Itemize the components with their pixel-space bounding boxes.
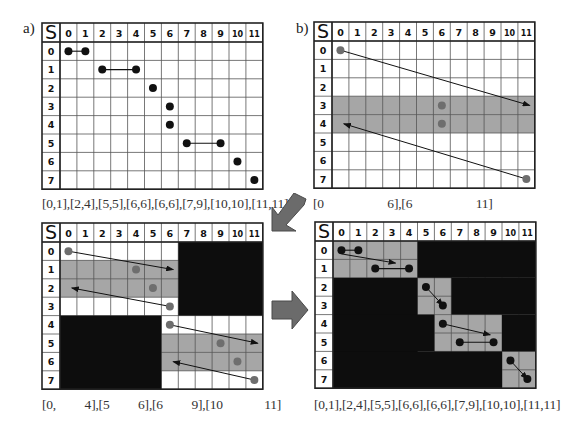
corner-label: S: [45, 21, 57, 43]
column-header: 3: [116, 228, 123, 239]
row-header: 7: [48, 375, 55, 386]
data-point-dot: [522, 175, 530, 183]
data-point-dot: [166, 102, 174, 110]
row-header: 2: [321, 282, 328, 293]
column-header: 4: [133, 28, 140, 39]
column-header: 7: [183, 28, 190, 39]
column-header: 11: [249, 230, 261, 239]
data-point-dot: [439, 320, 447, 328]
data-point-dot: [233, 158, 241, 166]
data-point-dot: [405, 265, 413, 273]
data-point-dot: [438, 101, 446, 109]
column-header: 10: [232, 230, 244, 239]
row-header: 2: [320, 82, 327, 93]
column-header: 7: [456, 227, 463, 238]
row-header: 6: [320, 155, 327, 166]
column-header: 4: [405, 27, 412, 38]
row-header: 1: [321, 263, 328, 274]
masked-region: [333, 351, 502, 388]
row-header: 3: [320, 100, 327, 111]
data-point-dot: [64, 247, 72, 255]
highlight-band: [60, 260, 178, 278]
column-header: 0: [337, 27, 344, 38]
data-point-dot: [438, 120, 446, 128]
data-point-dot: [217, 339, 225, 347]
column-header: 10: [504, 29, 516, 38]
arrow-b-to-c-icon: [270, 193, 310, 233]
grid-panel-b: S0123456789101101234567: [312, 20, 538, 191]
data-point-dot: [354, 246, 362, 254]
data-point-dot: [506, 357, 514, 365]
corner-label: S: [318, 220, 330, 242]
column-header: 8: [473, 227, 480, 238]
data-point-dot: [422, 283, 430, 291]
highlight-band: [60, 279, 178, 297]
column-header: 3: [116, 28, 123, 39]
data-point-dot: [149, 84, 157, 92]
data-point-dot: [81, 47, 89, 55]
data-point-dot: [166, 302, 174, 310]
masked-region: [502, 315, 536, 352]
masked-region: [451, 278, 536, 315]
data-point-dot: [166, 321, 174, 329]
row-header: 6: [48, 356, 55, 367]
column-header: 6: [167, 228, 174, 239]
data-point-dot: [523, 375, 531, 383]
row-header: 6: [321, 355, 328, 366]
row-header: 3: [48, 301, 55, 312]
data-point-dot: [149, 284, 157, 292]
grid-panel-c: S0123456789101101234567: [40, 221, 266, 392]
column-header: 11: [521, 29, 533, 38]
data-point-dot: [456, 338, 464, 346]
column-header: 0: [65, 228, 72, 239]
row-header: 0: [320, 45, 327, 56]
panel-a-label: a): [23, 20, 35, 37]
column-header: 7: [183, 228, 190, 239]
row-header: 3: [48, 101, 55, 112]
column-header: 1: [82, 228, 89, 239]
column-header: 11: [249, 30, 261, 39]
data-point-dot: [250, 376, 258, 384]
row-header: 5: [321, 337, 328, 348]
row-header: 4: [321, 318, 328, 329]
data-point-dot: [337, 246, 345, 254]
column-header: 3: [389, 227, 396, 238]
column-header: 9: [217, 228, 224, 239]
column-header: 2: [99, 228, 106, 239]
column-header: 10: [232, 30, 244, 39]
row-header: 7: [48, 175, 55, 186]
column-header: 11: [522, 229, 534, 238]
column-header: 5: [150, 228, 157, 239]
column-header: 6: [440, 227, 447, 238]
row-header: 4: [48, 119, 55, 130]
column-header: 7: [455, 27, 462, 38]
column-header: 6: [439, 27, 446, 38]
grid-panel-d: S0123456789101101234567: [313, 220, 539, 391]
arrow-c-to-d-icon: [270, 290, 310, 330]
data-point-dot: [217, 139, 225, 147]
data-point-dot: [371, 265, 379, 273]
column-header: 1: [82, 28, 89, 39]
column-header: 5: [150, 28, 157, 39]
data-point-dot: [183, 139, 191, 147]
column-header: 2: [372, 227, 379, 238]
row-header: 2: [48, 283, 55, 294]
column-header: 0: [65, 28, 72, 39]
grid-panel-a: S0123456789101101234567: [40, 21, 266, 192]
data-point-dot: [132, 66, 140, 74]
data-point-dot: [250, 176, 258, 184]
column-header: 5: [422, 27, 429, 38]
row-header: 1: [320, 63, 327, 74]
column-header: 2: [99, 28, 106, 39]
row-header: 6: [48, 156, 55, 167]
column-header: 0: [338, 227, 345, 238]
masked-region: [418, 241, 536, 278]
column-header: 1: [355, 227, 362, 238]
column-header: 9: [490, 227, 497, 238]
data-point-dot: [490, 338, 498, 346]
column-header: 10: [505, 229, 517, 238]
row-header: 3: [321, 300, 328, 311]
row-header: 5: [48, 138, 55, 149]
corner-label: S: [45, 221, 57, 243]
column-header: 8: [200, 228, 207, 239]
